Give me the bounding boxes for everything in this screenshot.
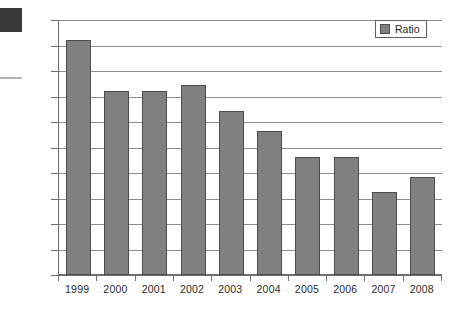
x-tick-mark-8: [364, 275, 365, 281]
x-tick-mark-2: [135, 275, 136, 281]
bar-2000: [104, 91, 129, 275]
x-tick-mark-end: [441, 275, 442, 281]
x-tick-mark-1: [96, 275, 97, 281]
gridline-255: [59, 71, 442, 72]
x-tick-mark-4: [211, 275, 212, 281]
gridline-260: [59, 46, 442, 47]
y-tick-mark-215: [51, 275, 58, 276]
bar-2005: [295, 157, 320, 275]
x-tick-mark-0: [58, 275, 59, 281]
x-tick-mark-9: [403, 275, 404, 281]
bar-2007: [372, 192, 397, 275]
y-tick-mark-260: [51, 46, 58, 47]
bar-2003: [219, 111, 244, 275]
x-tick-mark-7: [326, 275, 327, 281]
x-tick-mark-6: [288, 275, 289, 281]
bar-chart: Ratio 2152202252302352402452502552602651…: [0, 0, 465, 315]
plot-area: [58, 20, 441, 275]
y-tick-mark-225: [51, 224, 58, 225]
y-tick-mark-245: [51, 122, 58, 123]
y-tick-mark-250: [51, 97, 58, 98]
bar-2004: [257, 131, 282, 275]
bar-2008: [410, 177, 435, 275]
x-tick-mark-5: [250, 275, 251, 281]
legend-swatch-ratio: [380, 24, 390, 34]
bar-1999: [66, 40, 91, 275]
y-tick-mark-230: [51, 199, 58, 200]
y-tick-mark-235: [51, 173, 58, 174]
chart-legend: Ratio: [375, 20, 427, 38]
x-tick-label-2008: 2008: [399, 283, 445, 295]
y-tick-mark-240: [51, 148, 58, 149]
bar-2002: [181, 85, 206, 275]
y-tick-mark-220: [51, 250, 58, 251]
x-tick-mark-3: [173, 275, 174, 281]
y-tick-mark-255: [51, 71, 58, 72]
bar-2001: [142, 91, 167, 275]
y-tick-mark-265: [51, 20, 58, 21]
bar-2006: [334, 157, 359, 275]
legend-label-ratio: Ratio: [395, 24, 420, 35]
